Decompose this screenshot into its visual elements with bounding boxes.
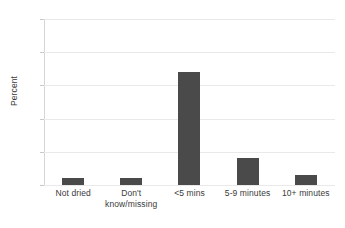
bar-5-9-minutes[interactable] [237, 158, 259, 185]
x-axis-labels: Not dried Don't know/missing <5 mins 5-9… [44, 188, 335, 228]
y-axis-title: Percent [9, 61, 19, 121]
bar-slot-0 [44, 19, 102, 185]
x-label-10-plus-minutes: 10+ minutes [275, 188, 337, 199]
bar-slot-2 [160, 19, 218, 185]
bar-slot-4 [277, 19, 335, 185]
bar-series [44, 19, 335, 185]
y-tick-0 [40, 185, 44, 186]
gridline-0 [44, 185, 335, 186]
x-label-dont-know-missing: Don't know/missing [94, 188, 168, 210]
bar-under-5-mins[interactable] [178, 72, 200, 185]
x-label-5-9-minutes: 5-9 minutes [217, 188, 279, 199]
x-label-under-5-mins: <5 mins [160, 188, 218, 199]
bar-not-dried[interactable] [62, 178, 84, 185]
bar-slot-1 [102, 19, 160, 185]
bar-slot-3 [219, 19, 277, 185]
bar-10-plus-minutes[interactable] [295, 175, 317, 185]
bar-dont-know-missing[interactable] [120, 178, 142, 185]
bar-chart: Percent 100 80 60 40 20 0 [0, 0, 345, 228]
